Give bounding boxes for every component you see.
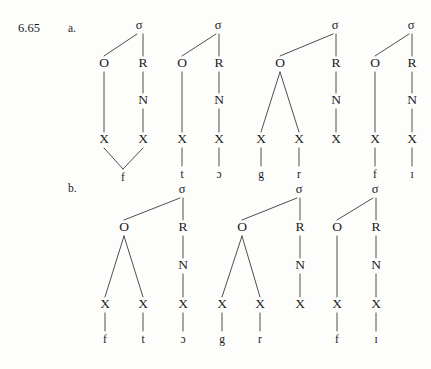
- tree-a3-branch-sigma-onset: [280, 34, 333, 56]
- tree-b3-skeletal-slot-0: X: [332, 296, 342, 311]
- tree-a3-skeletal-slot-0: X: [256, 131, 266, 146]
- tree-a4-skeletal-slot-1: X: [407, 131, 417, 146]
- tree-b3-branch-sigma-onset: [337, 198, 373, 220]
- tree-b3-segment-0: f: [335, 333, 339, 345]
- tree-b1-branch-sigma-onset: [124, 198, 180, 220]
- tree-a2-skeletal-slot-1: X: [214, 131, 224, 146]
- trees-layer: σORNXXfσORNXXtɔσORNXXXgrσORNXXfɪσORNXXXf…: [99, 18, 417, 346]
- tree-a3-onset-node: O: [275, 55, 285, 70]
- tree-b2-branch-sigma-onset: [242, 198, 297, 220]
- tree-a1-segment-shared: f: [121, 171, 125, 183]
- tree-a1-onset-node: O: [99, 55, 109, 70]
- tree-b3-sigma-node: σ: [372, 182, 379, 196]
- tree-a3-rhyme-node: R: [331, 55, 340, 70]
- tree-a1-branch-slot-segment-1: [123, 148, 143, 169]
- tree-a2-segment-1: ɔ: [216, 168, 221, 180]
- tree-a4-onset-node: O: [370, 55, 380, 70]
- tree-a2-sigma-node: σ: [215, 18, 222, 32]
- tree-a1-skeletal-slot-0: X: [99, 131, 109, 146]
- tree-a4-nucleus-node: N: [407, 92, 417, 107]
- tree-b3-onset-node: O: [332, 219, 342, 234]
- tree-a1-skeletal-slot-1: X: [138, 131, 148, 146]
- tree-b1-skeletal-slot-0: X: [100, 296, 110, 311]
- tree-a4-rhyme-node: R: [407, 55, 416, 70]
- tree-a3-segment-1: r: [297, 168, 301, 180]
- tree-a3-segment-0: g: [258, 168, 264, 181]
- tree-b1-branch-onset-slot-1: [124, 236, 143, 297]
- tree-a1-nucleus-node: N: [138, 92, 148, 107]
- syllable-tree-canvas: σORNXXfσORNXXtɔσORNXXXgrσORNXXfɪσORNXXXf…: [0, 0, 431, 369]
- tree-b3-skeletal-slot-1: X: [371, 296, 381, 311]
- tree-a2-onset-node: O: [177, 55, 187, 70]
- tree-a1-branch-slot-segment-0: [104, 148, 123, 169]
- tree-a4-skeletal-slot-0: X: [370, 131, 380, 146]
- tree-b3-rhyme-node: R: [371, 219, 380, 234]
- tree-b1-sigma-node: σ: [179, 182, 186, 196]
- tree-a1-sigma-node: σ: [136, 18, 143, 32]
- tree-a3-skeletal-slot-1: X: [294, 131, 304, 146]
- tree-a4-branch-sigma-onset: [375, 34, 409, 56]
- tree-b1-segment-2: ɔ: [180, 333, 185, 345]
- tree-a2-nucleus-node: N: [214, 92, 224, 107]
- tree-b2-segment-0: g: [219, 333, 225, 346]
- tree-a4-segment-0: f: [373, 168, 377, 180]
- tree-b2-nucleus-node: N: [295, 257, 305, 272]
- tree-b2-onset-node: O: [237, 219, 247, 234]
- figure-container: 6.65 a. b. σORNXXfσORNXXtɔσORNXXXgrσORNX…: [0, 0, 431, 369]
- tree-b1-skeletal-slot-1: X: [138, 296, 148, 311]
- tree-a2-branch-sigma-onset: [182, 34, 216, 56]
- tree-a3-branch-onset-slot-0: [261, 72, 280, 132]
- tree-b1-rhyme-node: R: [178, 219, 187, 234]
- tree-a3-branch-onset-slot-1: [280, 72, 299, 132]
- tree-b3-segment-1: ɪ: [374, 333, 377, 345]
- tree-b1-skeletal-slot-2: X: [178, 296, 188, 311]
- tree-b1-branch-onset-slot-0: [105, 236, 124, 297]
- tree-b2-sigma-node: σ: [296, 182, 303, 196]
- tree-b2-segment-1: r: [258, 333, 262, 345]
- tree-b2-skeletal-slot-0: X: [217, 296, 227, 311]
- tree-a1-branch-sigma-onset: [104, 34, 137, 56]
- tree-b3-nucleus-node: N: [371, 257, 381, 272]
- tree-a2-rhyme-node: R: [214, 55, 223, 70]
- tree-b2-branch-onset-slot-0: [222, 236, 242, 297]
- tree-b1-segment-1: t: [141, 333, 145, 345]
- tree-a2-segment-0: t: [180, 168, 184, 180]
- tree-a2-skeletal-slot-0: X: [177, 131, 187, 146]
- tree-b2-skeletal-slot-1: X: [255, 296, 265, 311]
- tree-b2-rhyme-node: R: [295, 219, 304, 234]
- tree-a3-nucleus-node: N: [331, 92, 341, 107]
- tree-b1-onset-node: O: [119, 219, 129, 234]
- tree-b1-nucleus-node: N: [178, 257, 188, 272]
- tree-a3-sigma-node: σ: [332, 18, 339, 32]
- tree-b2-skeletal-slot-2: X: [295, 296, 305, 311]
- tree-a3-skeletal-slot-2: X: [331, 131, 341, 146]
- tree-b2-branch-onset-slot-1: [242, 236, 260, 297]
- tree-a1-rhyme-node: R: [138, 55, 147, 70]
- tree-b1-segment-0: f: [103, 333, 107, 345]
- tree-a4-sigma-node: σ: [408, 18, 415, 32]
- tree-a4-segment-1: ɪ: [410, 168, 413, 180]
